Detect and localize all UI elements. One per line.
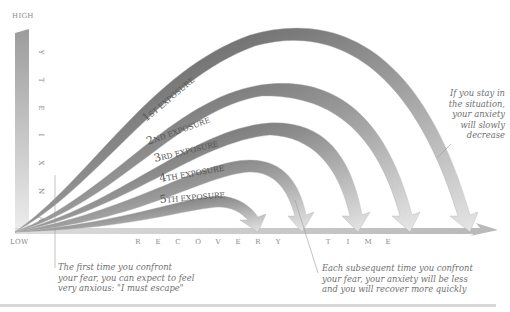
note-line: If you stay in bbox=[425, 88, 505, 99]
note-line: decrease bbox=[425, 130, 505, 141]
y-letter: N bbox=[37, 188, 45, 194]
x-letter: O bbox=[188, 238, 208, 246]
y-letter: I bbox=[37, 134, 45, 137]
subsequent-leader bbox=[295, 200, 318, 273]
note-line: will slowly bbox=[425, 120, 505, 131]
x-letter: E bbox=[148, 238, 168, 246]
y-letter: E bbox=[37, 105, 45, 110]
note-line: very anxious: "I must escape" bbox=[58, 283, 194, 294]
y-axis-high-label: HIGH bbox=[12, 12, 34, 20]
note-line: your anxiety bbox=[425, 109, 505, 120]
x-letter: Y bbox=[268, 238, 288, 246]
first-time-note: The first time you confront your fear, y… bbox=[58, 262, 194, 294]
x-letter: R bbox=[248, 238, 268, 246]
y-letter: T bbox=[37, 77, 45, 82]
x-letter: E bbox=[378, 238, 398, 246]
x-letter: E bbox=[228, 238, 248, 246]
y-letter: X bbox=[37, 161, 45, 166]
y-letter: Y bbox=[37, 50, 45, 55]
x-letter: R bbox=[128, 238, 148, 246]
y-axis-title: A N X I E T Y bbox=[36, 48, 46, 223]
footer-divider bbox=[0, 304, 496, 307]
x-letter: V bbox=[208, 238, 228, 246]
stay-note: If you stay in the situation, your anxie… bbox=[425, 88, 505, 141]
y-axis-bar bbox=[15, 29, 29, 232]
x-letter: I bbox=[338, 238, 358, 246]
note-line: your fear, your anxiety will be less bbox=[322, 274, 473, 285]
note-line: The first time you confront bbox=[58, 262, 194, 273]
x-letter: T bbox=[318, 238, 338, 246]
note-line: Each subsequent time you confront bbox=[322, 263, 473, 274]
subsequent-note: Each subsequent time you confront your f… bbox=[322, 263, 473, 295]
x-letter: C bbox=[168, 238, 188, 246]
x-letter: M bbox=[358, 238, 378, 246]
y-letter: A bbox=[37, 216, 45, 221]
y-axis-low-label: LOW bbox=[10, 238, 28, 246]
note-line: your fear, you can expect to feel bbox=[58, 273, 194, 284]
x-axis-title: R E C O V E R Y T I M E bbox=[128, 238, 398, 246]
note-line: the situation, bbox=[425, 99, 505, 110]
note-line: and you will recover more quickly bbox=[322, 284, 473, 295]
x-letter-gap bbox=[288, 238, 318, 246]
